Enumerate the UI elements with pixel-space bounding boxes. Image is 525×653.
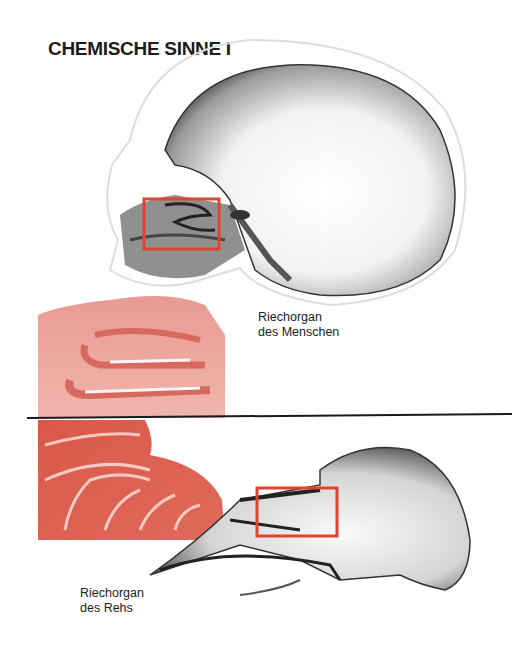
caption-deer: Riechorgan des Rehs [80, 586, 144, 616]
human-detail-inset [38, 296, 225, 418]
caption-human-line1: Riechorgan [258, 310, 339, 325]
caption-human-line2: des Menschen [258, 325, 339, 340]
deer-detail-inset [38, 420, 225, 540]
human-skull-drawing [107, 40, 465, 305]
caption-deer-line1: Riechorgan [80, 586, 144, 601]
caption-human: Riechorgan des Menschen [258, 310, 339, 340]
caption-deer-line2: des Rehs [80, 601, 144, 616]
